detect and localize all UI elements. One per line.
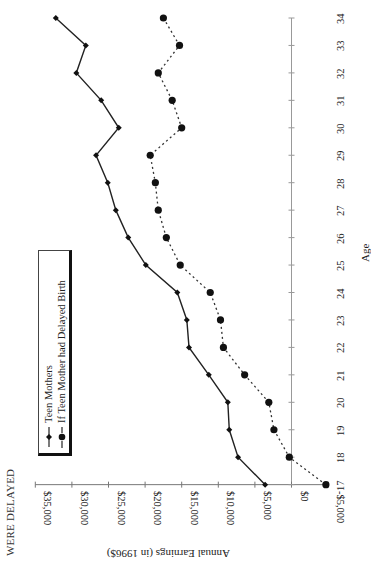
age-tick-label: 30 xyxy=(335,123,346,134)
circle-marker-icon xyxy=(160,14,167,21)
circle-marker-icon xyxy=(155,69,162,76)
age-tick-label: 24 xyxy=(335,288,346,299)
age-axis-label: Age xyxy=(359,244,371,262)
diamond-marker-icon xyxy=(184,317,190,323)
earnings-tick-label: $0 xyxy=(299,491,310,502)
diamond-marker-icon xyxy=(113,207,119,213)
series-teen-mothers xyxy=(53,15,268,488)
age-tick-label: 17 xyxy=(335,480,346,491)
age-tick-label: 23 xyxy=(335,315,346,326)
circle-marker-icon xyxy=(59,434,66,441)
earnings-tick-label: $35,000 xyxy=(42,491,53,525)
earnings-axis-label: Annual Earnings (in 1996$) xyxy=(107,548,230,560)
age-tick-label: 28 xyxy=(335,178,346,189)
circle-marker-icon xyxy=(322,481,329,488)
circle-marker-icon xyxy=(147,152,154,159)
axes xyxy=(35,18,328,488)
earnings-tick-label: $30,000 xyxy=(79,491,90,525)
age-tick-label: 18 xyxy=(335,453,346,464)
series-delayed-birth xyxy=(147,14,330,488)
age-tick-label: 21 xyxy=(335,370,346,381)
age-tick-label: 33 xyxy=(335,41,346,52)
age-tick-label: 32 xyxy=(335,68,346,79)
age-tick-label: 26 xyxy=(335,233,346,244)
earnings-tick-label: -$5,000 xyxy=(335,491,346,523)
circle-marker-icon xyxy=(178,124,185,131)
earnings-tick-label: $25,000 xyxy=(116,491,127,525)
chart-title: WERE DELAYED xyxy=(4,469,16,556)
diamond-marker-icon xyxy=(226,427,232,433)
earnings-tick-label: $10,000 xyxy=(225,491,236,525)
earnings-tick-label: $5,000 xyxy=(262,491,273,520)
circle-marker-icon xyxy=(152,179,159,186)
circle-marker-icon xyxy=(207,289,214,296)
age-tick-label: 31 xyxy=(335,96,346,107)
circle-marker-icon xyxy=(220,344,227,351)
diamond-marker-icon xyxy=(46,434,52,440)
circle-marker-icon xyxy=(155,207,162,214)
circle-marker-icon xyxy=(286,454,293,461)
earnings-tick-label: $15,000 xyxy=(189,491,200,525)
circle-marker-icon xyxy=(217,316,224,323)
circle-marker-icon xyxy=(241,371,248,378)
circle-marker-icon xyxy=(163,234,170,241)
circle-marker-icon xyxy=(177,261,184,268)
age-tick-label: 20 xyxy=(335,398,346,409)
age-tick-label: 25 xyxy=(335,261,346,272)
circle-marker-icon xyxy=(265,399,272,406)
age-tick-label: 27 xyxy=(335,206,346,217)
age-tick-label: 22 xyxy=(335,343,346,354)
age-tick-label: 19 xyxy=(335,425,346,436)
age-tick-label: 34 xyxy=(335,14,346,25)
legend-item-teen-mothers: Teen Mothers xyxy=(43,365,54,423)
circle-marker-icon xyxy=(169,97,176,104)
legend-item-delayed-birth: If Teen Mother had Delayed Birth xyxy=(56,280,67,423)
circle-marker-icon xyxy=(270,426,277,433)
earnings-tick-label: $20,000 xyxy=(152,491,163,525)
diamond-marker-icon xyxy=(105,180,111,186)
legend: Teen Mothers If Teen Mother had Delayed … xyxy=(38,250,72,456)
age-tick-label: 29 xyxy=(335,151,346,162)
circle-marker-icon xyxy=(176,42,183,49)
